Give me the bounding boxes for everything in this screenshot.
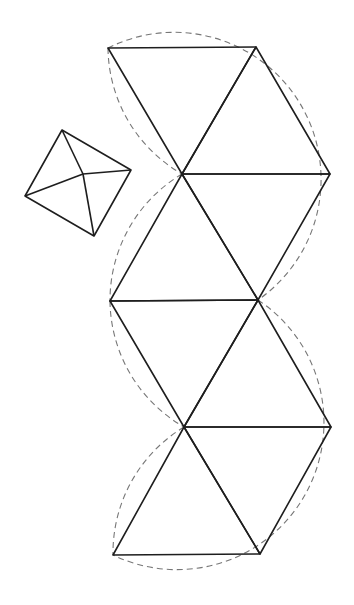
pyramid-edge-4: [25, 174, 83, 196]
triangle-face-5: [110, 300, 258, 427]
square-pyramid: [25, 130, 131, 236]
pyramid-edge-2: [83, 170, 131, 174]
triangle-face-7: [184, 427, 331, 554]
triangle-face-1: [108, 47, 256, 174]
diagram-canvas: [0, 0, 354, 605]
triangle-face-6: [184, 300, 331, 427]
triangle-face-4: [110, 174, 258, 301]
triangle-face-2: [182, 47, 330, 174]
triangle-face-3: [182, 174, 330, 300]
triangle-net: [108, 47, 331, 555]
pyramid-edge-3: [83, 174, 94, 236]
pyramid-base: [25, 130, 131, 236]
triangle-face-8: [113, 427, 260, 555]
dashed-arc-1: [108, 32, 321, 300]
dashed-arc-6: [113, 300, 324, 570]
